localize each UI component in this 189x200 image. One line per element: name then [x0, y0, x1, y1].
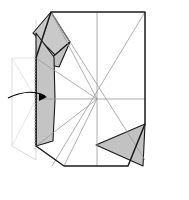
fold-diagram-svg — [0, 0, 189, 200]
diagram-canvas — [0, 0, 189, 200]
ghost-crease-b — [12, 99, 36, 146]
